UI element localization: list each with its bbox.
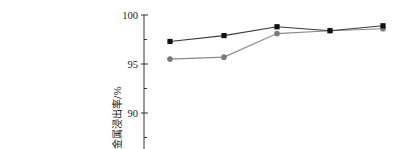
circle-data-point xyxy=(221,54,227,60)
y-tick-label: 100 xyxy=(122,10,138,21)
square-data-point xyxy=(221,33,226,38)
square-data-point xyxy=(167,39,172,44)
y-axis-label: 金属浸出率/% xyxy=(111,86,123,149)
y-tick-label: 90 xyxy=(128,108,139,119)
square-data-point xyxy=(327,28,332,33)
square-data-point xyxy=(380,23,385,28)
series-layer xyxy=(167,23,386,62)
circle-series xyxy=(167,26,386,62)
square-data-point xyxy=(274,24,279,29)
circle-data-point xyxy=(274,31,280,37)
line-chart: 1009590 金属浸出率/% xyxy=(0,0,417,149)
circle-data-point xyxy=(167,56,173,62)
y-tick-label: 95 xyxy=(128,59,139,70)
